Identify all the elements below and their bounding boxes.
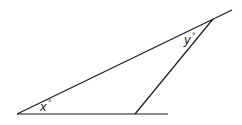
angle-y-degree: °: [192, 31, 196, 41]
angle-x-label: x: [39, 99, 47, 114]
triangle-side-line: [135, 19, 213, 114]
geometry-figure: x ° y °: [0, 0, 242, 125]
angle-y-label: y: [183, 32, 192, 47]
angle-x-degree: °: [48, 98, 52, 108]
